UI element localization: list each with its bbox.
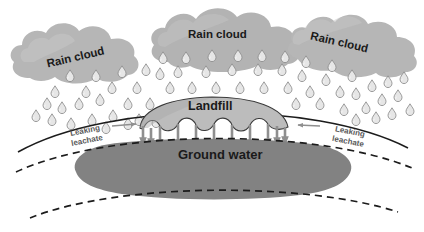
rain-cloud-middle-label: Rain cloud [188,28,247,40]
leachate-pointer-right-arrow [298,125,320,126]
rain-cloud-middle-shape [151,8,299,72]
landfill-label: Landfill [188,99,232,113]
landfill-leachate-diagram: Rain cloud Rain cloud Rain cloud Landfil… [0,0,424,232]
ground-water-label: Ground water [178,147,263,162]
